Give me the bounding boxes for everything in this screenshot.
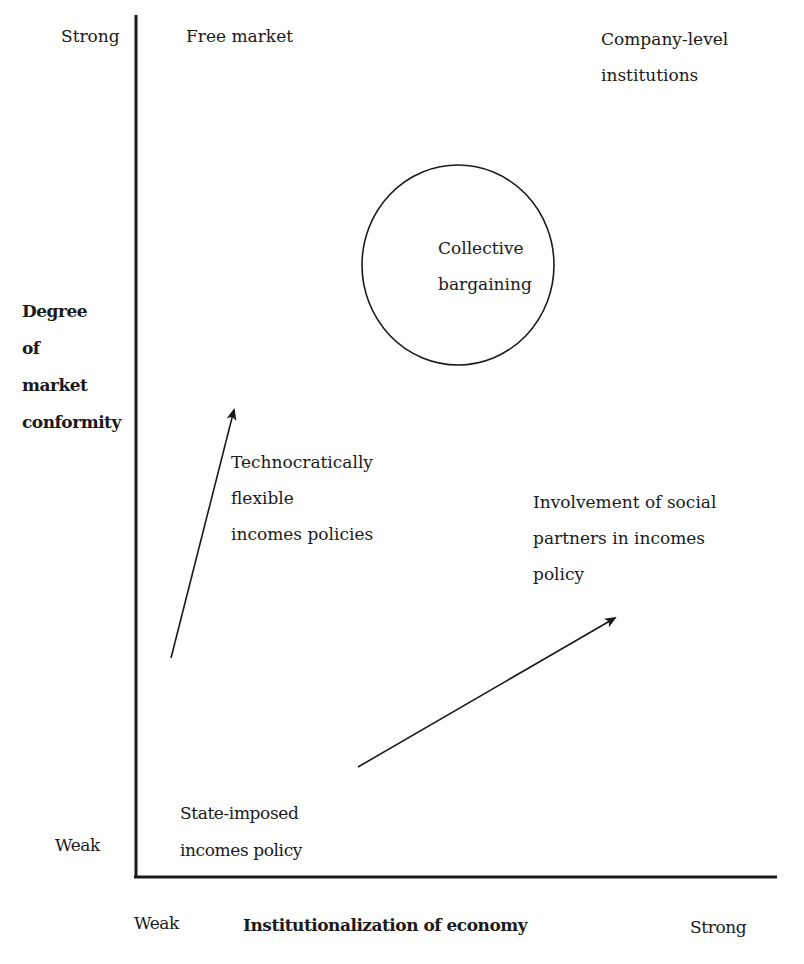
- x-axis-strong-label: Strong: [690, 912, 746, 942]
- y-axis-weak-label: Weak: [55, 830, 100, 860]
- diagram-canvas: [0, 0, 804, 964]
- social-partners-line-3: policy: [533, 556, 716, 592]
- social-partners-arrow: [358, 618, 615, 767]
- state-imposed-line-1: State-imposed: [180, 795, 302, 832]
- x-axis-weak-label: Weak: [134, 908, 179, 938]
- company-level-line-1: Company-level: [601, 21, 728, 57]
- social-partners-line-2: partners in incomes: [533, 520, 716, 556]
- y-axis-title-line-4: conformity: [22, 404, 121, 441]
- state-imposed-label: State-imposed incomes policy: [180, 795, 302, 869]
- social-partners-label: Involvement of social partners in income…: [533, 484, 716, 592]
- y-axis-title-line-3: market: [22, 367, 121, 404]
- technocratic-arrow: [171, 410, 234, 658]
- technocratic-line-2: flexible: [231, 480, 373, 516]
- technocratic-line-3: incomes policies: [231, 516, 373, 552]
- collective-bargaining-line-2: bargaining: [438, 266, 532, 302]
- collective-bargaining-line-1: Collective: [438, 230, 532, 266]
- social-partners-line-1: Involvement of social: [533, 484, 716, 520]
- y-axis-title-line-2: of: [22, 330, 121, 367]
- technocratic-label: Technocratically flexible incomes polici…: [231, 444, 373, 552]
- free-market-label: Free market: [186, 21, 293, 51]
- company-level-line-2: institutions: [601, 57, 728, 93]
- y-axis-title: Degree of market conformity: [22, 293, 121, 441]
- technocratic-line-1: Technocratically: [231, 444, 373, 480]
- collective-bargaining-label: Collective bargaining: [438, 230, 532, 302]
- x-axis-title: Institutionalization of economy: [243, 910, 527, 940]
- y-axis-strong-label: Strong: [61, 21, 120, 51]
- state-imposed-line-2: incomes policy: [180, 832, 302, 869]
- company-level-label: Company-level institutions: [601, 21, 728, 93]
- y-axis-title-line-1: Degree: [22, 293, 121, 330]
